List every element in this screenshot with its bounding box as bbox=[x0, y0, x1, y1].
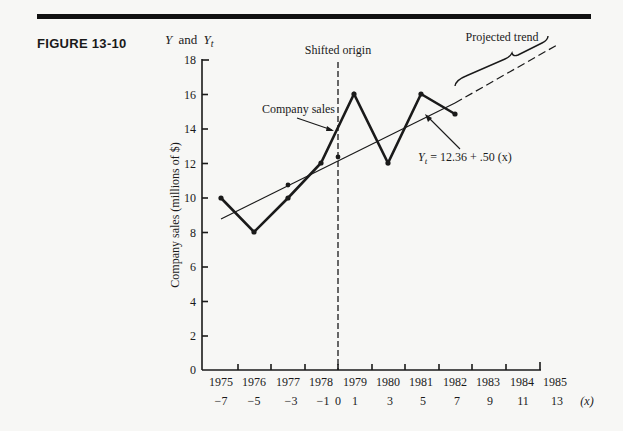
svg-text:12: 12 bbox=[184, 157, 196, 171]
svg-text:0: 0 bbox=[335, 394, 341, 408]
axes bbox=[202, 59, 541, 370]
svg-text:13: 13 bbox=[551, 394, 563, 408]
svg-text:−3: −3 bbox=[285, 394, 298, 408]
svg-text:1979: 1979 bbox=[343, 375, 367, 389]
svg-text:1983: 1983 bbox=[476, 375, 500, 389]
equation-arrow bbox=[427, 116, 460, 149]
svg-text:6: 6 bbox=[190, 260, 196, 274]
svg-text:9: 9 bbox=[487, 394, 493, 408]
svg-text:8: 8 bbox=[190, 226, 196, 240]
svg-text:1975: 1975 bbox=[209, 375, 233, 389]
x-year-labels: 1975 1976 1977 1978 1979 1980 1981 1982 … bbox=[209, 375, 567, 389]
svg-text:−7: −7 bbox=[215, 394, 228, 408]
company-sales-arrowhead bbox=[326, 126, 334, 131]
svg-text:3: 3 bbox=[387, 394, 393, 408]
svg-text:1978: 1978 bbox=[309, 375, 333, 389]
trend-equation-label: Yt = 12.36 + .50 (x) bbox=[418, 150, 512, 166]
svg-text:4: 4 bbox=[190, 295, 196, 309]
svg-text:14: 14 bbox=[184, 122, 196, 136]
svg-text:−1: −1 bbox=[317, 394, 330, 408]
y-axis-title: Company sales (millions of $) bbox=[168, 142, 182, 287]
svg-text:18: 18 bbox=[184, 53, 196, 67]
shifted-origin-label: Shifted origin bbox=[305, 43, 371, 57]
svg-text:10: 10 bbox=[184, 191, 196, 205]
svg-text:1977: 1977 bbox=[276, 375, 300, 389]
svg-text:16: 16 bbox=[184, 88, 196, 102]
svg-text:1980: 1980 bbox=[376, 375, 400, 389]
svg-text:2: 2 bbox=[190, 329, 196, 343]
svg-text:1: 1 bbox=[352, 394, 358, 408]
svg-text:1981: 1981 bbox=[409, 375, 433, 389]
x-unit-label: (x) bbox=[580, 394, 593, 408]
y-axis-top-label: Y and Yt bbox=[165, 32, 214, 49]
svg-text:1976: 1976 bbox=[242, 375, 266, 389]
company-sales-label: Company sales bbox=[262, 102, 335, 116]
svg-text:1984: 1984 bbox=[510, 375, 534, 389]
y-tick-labels: 18 16 14 12 10 8 6 4 2 0 bbox=[184, 53, 196, 377]
svg-text:0: 0 bbox=[190, 363, 196, 377]
svg-text:7: 7 bbox=[454, 394, 460, 408]
svg-text:−5: −5 bbox=[248, 394, 261, 408]
projected-trend-label: Projected trend bbox=[466, 30, 539, 44]
svg-text:11: 11 bbox=[517, 394, 529, 408]
chart: Y and Yt Company sales (millions of $) 1… bbox=[0, 0, 623, 431]
x-coded-labels: −7 −5 −3 −1 0 1 3 5 7 9 11 13 (x) bbox=[215, 394, 594, 408]
svg-text:5: 5 bbox=[420, 394, 426, 408]
svg-text:1982: 1982 bbox=[443, 375, 467, 389]
svg-text:1985: 1985 bbox=[543, 375, 567, 389]
